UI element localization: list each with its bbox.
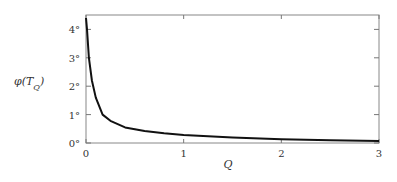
plot-frame (86, 15, 379, 143)
x-axis-label: Q (223, 158, 232, 171)
y-axis-label: φ(TQ) (14, 75, 44, 92)
y-tick-label: 1° (69, 110, 80, 121)
y-tick-label: 0° (69, 138, 80, 149)
x-tick-label: 0 (83, 148, 89, 159)
y-tick-label: 2° (69, 81, 80, 92)
x-tick-label: 3 (376, 148, 382, 159)
y-axis-ticks: 0°1°2°3°4° (69, 24, 379, 149)
x-tick-label: 2 (278, 148, 284, 159)
y-tick-label: 4° (69, 24, 80, 35)
y-tick-label: 3° (69, 53, 80, 64)
x-tick-label: 1 (180, 148, 186, 159)
chart: 0123 0°1°2°3°4° Q φ(TQ) (0, 0, 397, 182)
data-curve (86, 18, 379, 141)
